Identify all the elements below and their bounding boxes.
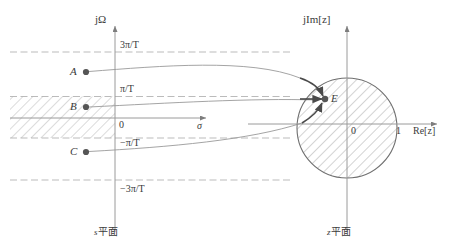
s-plane-origin-label: 0 [119,120,124,130]
z-plane-point-E-label: E [331,93,338,104]
s-plane-real-axis-label: σ [197,121,202,131]
s-gridline-label-neg-pi-over-T: −π/T [120,138,140,148]
s-plane-primary-strip-hatch [10,97,115,139]
diagram-canvas [0,0,450,242]
s-plane-point-A-marker [83,69,89,75]
z-plane-caption-cjk: 平面 [331,226,351,237]
s-plane-caption-cjk: 平面 [98,226,118,237]
z-plane-caption: z平面 [327,222,351,238]
z-plane-group [248,26,437,232]
figure-root: jΩ 3π/T π/T −π/T −3π/T 0 σ A B C s平面 jIm… [0,0,450,242]
z-plane-real-axis-label: Re[z] [413,126,435,136]
s-gridline-label-pi-over-T: π/T [120,84,134,94]
mapping-curve-B-to-E [89,100,318,107]
s-gridline-label-3pi-over-T: 3π/T [120,40,139,50]
s-plane-caption: s平面 [94,222,118,238]
z-plane-unit-label: 1 [396,126,401,136]
s-plane-point-B-label: B [70,101,77,112]
s-plane-point-A-label: A [70,66,77,77]
s-plane-point-C-marker [83,149,89,155]
z-plane-point-E-marker [322,96,328,102]
z-plane-origin-label: 0 [351,126,356,136]
s-gridline-label-neg-3pi-over-T: −3π/T [120,184,145,194]
mapping-curve-A-to-E [89,65,300,78]
s-plane-point-C-label: C [70,146,77,157]
s-plane-imaginary-axis-label: jΩ [95,14,106,25]
s-plane-point-B-marker [83,104,89,110]
s-plane-group [10,26,290,232]
z-plane-imaginary-axis-label: jIm[z] [303,14,330,25]
